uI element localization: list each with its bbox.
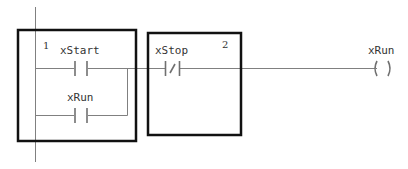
coil-xrun[interactable]: xRun <box>368 44 395 76</box>
nc-slash <box>170 64 175 73</box>
contact-xstart[interactable]: xStart <box>60 44 100 76</box>
contact-xrun-label: xRun <box>67 91 94 104</box>
box-2-number: 2 <box>222 39 228 50</box>
contact-xstop[interactable]: xStop <box>155 44 188 76</box>
contact-xstop-label: xStop <box>155 44 188 57</box>
coil-paren-right <box>388 61 390 76</box>
box-1-number: 1 <box>43 40 49 51</box>
coil-xrun-label: xRun <box>368 44 395 57</box>
ladder-diagram: xStart xRun xStop xRun 1 2 <box>0 0 408 169</box>
contact-xstart-label: xStart <box>60 44 100 57</box>
contact-xrun[interactable]: xRun <box>67 91 94 123</box>
